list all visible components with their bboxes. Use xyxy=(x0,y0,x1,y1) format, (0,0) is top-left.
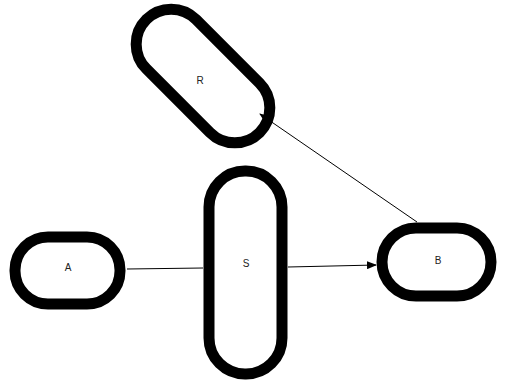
node-b-label: B xyxy=(435,255,442,266)
edge-a-s xyxy=(127,268,203,269)
node-a-label: A xyxy=(65,262,72,273)
node-s[interactable] xyxy=(209,171,282,374)
node-r-label: R xyxy=(196,75,203,86)
diagram-canvas: R A S B xyxy=(0,0,505,387)
node-s-label: S xyxy=(243,258,250,269)
node-s-shape xyxy=(209,171,282,374)
edge-s-b xyxy=(288,265,376,267)
